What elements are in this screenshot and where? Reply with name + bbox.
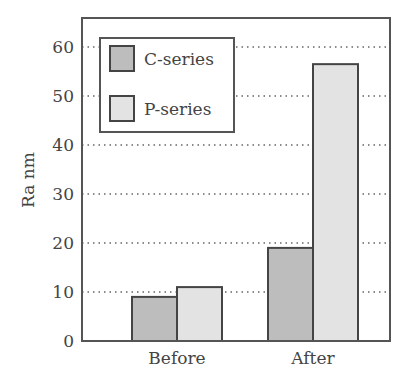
bar-c-series-before: [132, 297, 177, 341]
y-tick-label: 50: [52, 86, 74, 106]
legend-swatch-p-series: [110, 96, 134, 121]
y-tick-label: 30: [52, 184, 74, 204]
y-tick-label: 0: [63, 331, 74, 351]
y-axis-ticks: 0102030405060: [52, 37, 74, 351]
y-tick-label: 60: [52, 37, 74, 57]
legend-label-p-series: P-series: [144, 99, 211, 119]
bar-p-series-after: [313, 64, 358, 341]
x-tick-label: After: [290, 348, 335, 368]
y-tick-label: 40: [52, 135, 74, 155]
x-axis-ticks: BeforeAfter: [148, 348, 335, 368]
legend-label-c-series: C-series: [144, 49, 214, 69]
legend-swatch-c-series: [110, 46, 134, 71]
bar-p-series-before: [177, 287, 222, 341]
x-tick-label: Before: [148, 348, 205, 368]
y-tick-label: 10: [52, 282, 74, 302]
y-tick-label: 20: [52, 233, 74, 253]
bar-c-series-after: [268, 248, 313, 341]
legend: C-series P-series: [100, 38, 234, 132]
y-axis-label: Ra nm: [18, 152, 38, 208]
bar-chart: 0102030405060 BeforeAfter Ra nm C-series…: [0, 0, 406, 386]
